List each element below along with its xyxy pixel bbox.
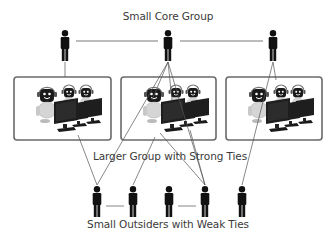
outsider-figure-5 xyxy=(238,186,247,217)
core-figure-left xyxy=(61,30,70,61)
outsider-figure-1 xyxy=(93,186,102,217)
strong-ties-label: Larger Group with Strong Ties xyxy=(93,150,247,162)
outsider-figure-4 xyxy=(201,186,210,217)
outsider-figure-3 xyxy=(165,186,174,217)
core-group-label: Small Core Group xyxy=(123,10,214,22)
group-box-2 xyxy=(121,77,216,140)
group-box-1 xyxy=(14,77,111,140)
core-figure-center xyxy=(164,30,173,61)
weak-ties-label: Small Outsiders with Weak Ties xyxy=(87,218,249,230)
outsider-figure-2 xyxy=(129,186,138,217)
social-network-diagram xyxy=(0,0,334,241)
group-box-3 xyxy=(226,77,322,140)
core-figure-right xyxy=(269,30,278,61)
